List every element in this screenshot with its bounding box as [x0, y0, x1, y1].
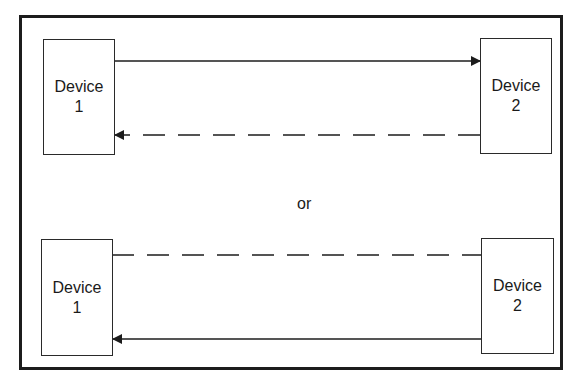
device-1-box-top: Device 1 [43, 39, 115, 155]
device-2-box-bottom: Device 2 [481, 238, 554, 354]
device-2-number: 2 [513, 296, 522, 316]
device-1-number: 1 [73, 298, 82, 318]
device-1-number: 1 [75, 97, 84, 117]
device-2-label: Device [493, 276, 542, 296]
or-separator: or [297, 195, 311, 213]
device-2-number: 2 [512, 96, 521, 116]
device-2-label: Device [492, 76, 541, 96]
device-2-box-top: Device 2 [480, 38, 552, 154]
device-1-label: Device [55, 77, 104, 97]
device-1-label: Device [53, 278, 102, 298]
device-1-box-bottom: Device 1 [41, 239, 113, 356]
